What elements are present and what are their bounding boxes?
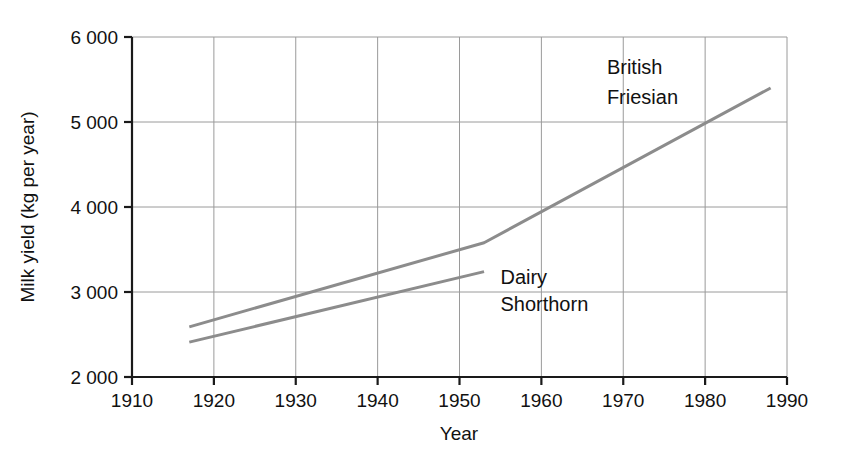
y-axis-tick-labels: 2 0003 0004 0005 0006 000 [70,27,118,388]
x-tick-label: 1950 [438,390,480,411]
y-axis-title: Milk yield (kg per year) [17,111,38,302]
series-annotation-british: British [607,56,663,78]
series-annotation-dairy: Dairy [500,266,547,288]
y-tick-label: 4 000 [70,197,118,218]
x-axis-title: Year [440,423,479,444]
x-tick-label: 1970 [602,390,644,411]
x-tick-label: 1980 [684,390,726,411]
x-tick-label: 1940 [356,390,398,411]
series-line-dairy-shorthorn [189,272,484,343]
x-axis-tick-labels: 191019201930194019501960197019801990 [111,390,808,411]
y-tick-label: 2 000 [70,367,118,388]
series-annotation-friesian: Friesian [607,86,678,108]
y-tick-label: 5 000 [70,112,118,133]
series-annotation-shorthorn: Shorthorn [500,293,588,315]
data-series-lines [189,88,770,342]
y-axis-ticks [124,37,132,377]
x-tick-label: 1920 [193,390,235,411]
x-axis-ticks [132,377,787,385]
chart-canvas: 2 0003 0004 0005 0006 000 19101920193019… [0,0,848,473]
x-tick-label: 1960 [520,390,562,411]
y-tick-label: 6 000 [70,27,118,48]
x-tick-label: 1930 [275,390,317,411]
milk-yield-line-chart: 2 0003 0004 0005 0006 000 19101920193019… [0,0,848,473]
x-tick-label: 1990 [766,390,808,411]
x-tick-label: 1910 [111,390,153,411]
y-tick-label: 3 000 [70,282,118,303]
